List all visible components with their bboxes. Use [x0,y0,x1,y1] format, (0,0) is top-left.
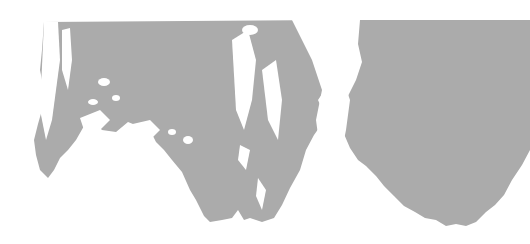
blot-graphic [0,0,530,244]
right-blot [342,20,530,226]
left-blot [34,20,335,222]
